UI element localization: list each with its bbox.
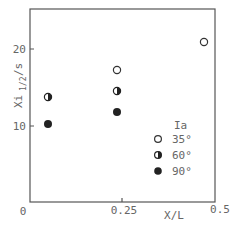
x-tick-label-0: 0 xyxy=(20,205,27,218)
point-60deg xyxy=(113,87,120,94)
legend-title: Ia xyxy=(174,119,187,132)
y-axis-label-sub: 1/2 xyxy=(19,76,28,91)
open-circle-icon xyxy=(155,136,162,143)
filled-circle-icon xyxy=(154,167,162,175)
legend-label-60: 60° xyxy=(172,149,192,162)
y-tick-label-20: 20 xyxy=(13,43,26,56)
point-35deg xyxy=(113,66,120,73)
y-tick-label-10: 10 xyxy=(13,120,26,133)
y-axis-label: Xi 1/2 /s xyxy=(12,63,28,108)
x-tick-label-025: 0.25 xyxy=(111,204,138,217)
scatter-chart: 20 10 0 0.25 0.5 X/L Xi 1/2 /s Ia 35° 60… xyxy=(0,0,237,227)
point-90deg xyxy=(113,108,121,116)
point-90deg xyxy=(44,120,52,128)
half-circle-icon xyxy=(155,152,162,159)
y-axis-label-main: Xi xyxy=(12,95,25,108)
legend-label-90: 90° xyxy=(172,165,192,178)
legend: Ia 35° 60° 90° xyxy=(154,119,192,178)
legend-label-35: 35° xyxy=(172,133,192,146)
point-35deg xyxy=(200,38,207,45)
x-axis-label: X/L xyxy=(164,209,184,222)
x-tick-label-05: 0.5 xyxy=(210,203,230,216)
y-axis-label-tail: /s xyxy=(12,63,25,76)
point-60deg xyxy=(44,93,51,100)
